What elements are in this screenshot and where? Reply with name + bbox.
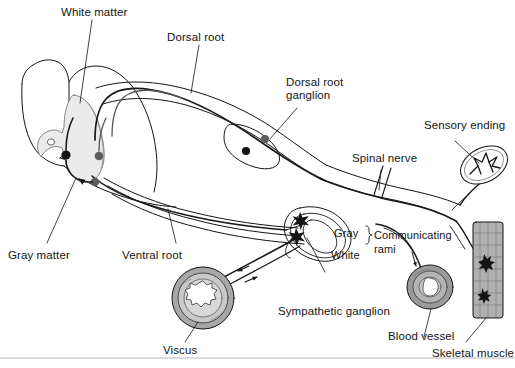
label-ventral-root: Ventral root bbox=[122, 249, 182, 262]
leader-sympathetic-ganglion bbox=[307, 238, 325, 272]
label-sensory-ending: Sensory ending bbox=[424, 119, 505, 132]
label-spinal-nerve: Spinal nerve bbox=[352, 152, 417, 165]
leader-gray-matter bbox=[47, 178, 76, 243]
label-blood-vessel: Blood vessel bbox=[388, 330, 454, 343]
viscus-cross-section bbox=[172, 267, 234, 329]
diagram-canvas bbox=[0, 0, 515, 368]
label-communicating-rami-line2: rami bbox=[374, 243, 396, 256]
anatomical-diagram-figure: White matter Dorsal root Dorsal root gan… bbox=[0, 0, 515, 368]
label-gray-ramus: Gray bbox=[334, 227, 358, 240]
label-dorsal-root-ganglion-line2: ganglion bbox=[286, 89, 330, 102]
label-gray-matter: Gray matter bbox=[8, 249, 70, 262]
ganglion-cell-body bbox=[242, 147, 250, 155]
label-dorsal-root-ganglion-line1: Dorsal root bbox=[286, 76, 343, 89]
central-canal bbox=[47, 139, 54, 145]
ventral-root-fibers bbox=[92, 176, 304, 244]
blood-vessel-cross-section bbox=[407, 265, 453, 309]
leader-dorsal-root bbox=[191, 45, 199, 93]
label-skeletal-muscle: Skeletal muscle bbox=[432, 347, 514, 360]
leader-spinal-nerve bbox=[379, 170, 381, 190]
ganglion-cell-body bbox=[261, 135, 269, 143]
leader-skeletal-muscle bbox=[466, 318, 486, 342]
sensory-ending-receptor bbox=[452, 138, 514, 210]
label-dorsal-root: Dorsal root bbox=[167, 31, 224, 44]
communicating-rami-brace bbox=[366, 226, 372, 244]
skeletal-muscle-fiber-block bbox=[473, 222, 503, 318]
spinal-nerve-trunk bbox=[320, 165, 460, 221]
label-communicating-rami-line1: Communicating bbox=[374, 229, 452, 242]
spinal-nerve-break-marks bbox=[374, 166, 391, 197]
label-white-matter: White matter bbox=[61, 6, 127, 19]
label-sympathetic-ganglion: Sympathetic ganglion bbox=[278, 305, 390, 318]
label-white-ramus: White bbox=[331, 249, 360, 262]
label-viscus: Viscus bbox=[163, 344, 197, 357]
leader-dorsal-root-ganglion bbox=[270, 108, 297, 139]
leader-white-matter bbox=[80, 20, 92, 103]
